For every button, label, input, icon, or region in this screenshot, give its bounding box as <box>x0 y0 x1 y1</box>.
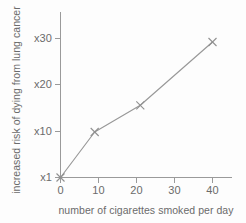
chart-figure: x30 x20 x10 x1 0 10 20 30 40 <box>0 0 246 223</box>
x-tick-label-2: 20 <box>130 184 142 196</box>
series-line-risk <box>61 42 213 178</box>
x-tick-label-0: 0 <box>57 184 63 196</box>
data-point-marker-1 <box>91 128 99 136</box>
y-tick-label-2: x10 <box>34 125 52 137</box>
y-axis-title: increased risk of dying from lung cancer <box>10 6 22 194</box>
data-point-marker-3 <box>209 38 217 46</box>
x-tick-label-1: 10 <box>92 184 104 196</box>
x-axis-title: number of cigarettes smoked per day <box>58 204 234 216</box>
y-tick-label-1: x20 <box>34 78 52 90</box>
data-point-marker-2 <box>136 101 144 109</box>
y-tick-label-3: x1 <box>40 171 52 183</box>
y-tick-label-0: x30 <box>34 32 52 44</box>
x-tick-label-4: 40 <box>206 184 218 196</box>
x-tick-label-3: 30 <box>168 184 180 196</box>
lung-cancer-risk-line-chart: x30 x20 x10 x1 0 10 20 30 40 <box>0 0 246 223</box>
